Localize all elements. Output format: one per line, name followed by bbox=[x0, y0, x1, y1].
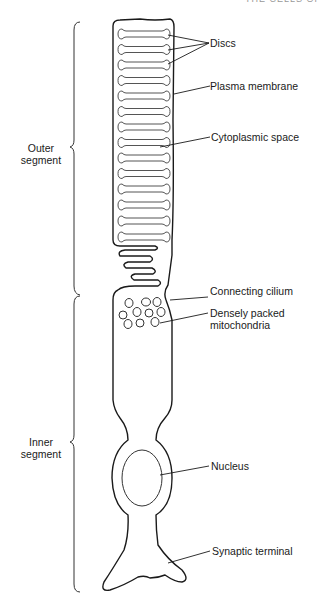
inner-segment-membrane bbox=[103, 290, 186, 590]
outer-segment-brace bbox=[70, 22, 80, 295]
nucleus-shape bbox=[122, 450, 162, 506]
label-connecting-cilium: Connecting cilium bbox=[210, 285, 293, 297]
outer-segment-label: Outer segment bbox=[18, 142, 64, 166]
discs-group bbox=[118, 29, 170, 242]
inner-segment-label-line1: Inner bbox=[18, 436, 64, 448]
inner-segment-brace bbox=[70, 296, 80, 592]
outer-segment-label-line2: segment bbox=[18, 154, 64, 166]
label-synaptic-terminal: Synaptic terminal bbox=[212, 545, 293, 557]
label-mitochondria-line2: mitochondria bbox=[210, 319, 285, 331]
mitochondria-group bbox=[119, 298, 165, 329]
label-nucleus: Nucleus bbox=[211, 460, 249, 472]
label-mitochondria: Densely packed mitochondria bbox=[210, 307, 285, 331]
label-mitochondria-line1: Densely packed bbox=[210, 307, 285, 319]
label-discs: Discs bbox=[210, 37, 236, 49]
label-plasma-membrane: Plasma membrane bbox=[210, 80, 298, 92]
inner-segment-label: Inner segment bbox=[18, 436, 64, 460]
inner-segment-label-line2: segment bbox=[18, 448, 64, 460]
outer-segment-label-line1: Outer bbox=[18, 142, 64, 154]
label-cytoplasmic-space: Cytoplasmic space bbox=[211, 131, 299, 143]
